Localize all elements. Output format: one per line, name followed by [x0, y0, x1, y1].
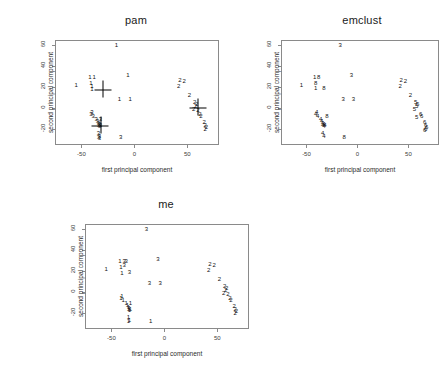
data-point: 1	[300, 82, 303, 88]
data-point: 2	[399, 83, 402, 89]
y-tick-label: -20	[70, 304, 76, 320]
data-point: 1	[92, 74, 95, 80]
x-axis-title: first principal component	[281, 166, 439, 173]
data-point: 2	[400, 77, 403, 83]
x-tick	[306, 145, 307, 148]
x-tick-label: 50	[393, 151, 423, 157]
data-point: 2	[182, 78, 185, 84]
data-point: 8	[325, 113, 328, 119]
data-point: 1	[128, 96, 131, 102]
data-point: 1	[118, 96, 121, 102]
y-tick-label: 20	[40, 78, 46, 94]
data-point: 2	[207, 267, 210, 273]
data-point: 1	[115, 42, 118, 48]
data-point: 3	[128, 269, 131, 275]
data-point: 1	[127, 318, 130, 324]
x-axis-title: first principal component	[85, 350, 249, 357]
data-point: 3	[148, 280, 151, 286]
panel-title: emclust	[226, 14, 446, 26]
data-point: 3	[145, 226, 148, 232]
x-tick	[217, 329, 218, 332]
data-point: 1	[149, 318, 152, 324]
x-tick	[164, 329, 165, 332]
data-point: 3	[352, 96, 355, 102]
y-tick-label: 20	[266, 78, 272, 94]
x-tick-label: 50	[202, 335, 232, 341]
data-point: 2	[208, 261, 211, 267]
data-point: 1	[129, 306, 132, 312]
y-axis-title: second principal component	[77, 224, 84, 329]
data-point: 3	[122, 262, 125, 268]
x-axis-title: first principal component	[55, 166, 219, 173]
medoid-vertical-bar	[103, 81, 104, 98]
data-point: 4	[323, 122, 326, 128]
data-point: 2	[229, 297, 232, 303]
data-point: 2	[222, 290, 225, 296]
medoid-crosshair	[189, 99, 206, 116]
data-point: 3	[119, 134, 122, 140]
x-tick	[134, 145, 135, 148]
data-point: 2	[212, 262, 215, 268]
y-tick-label: 40	[40, 57, 46, 73]
plot-frame	[55, 40, 219, 145]
data-point: 3	[158, 280, 161, 286]
x-tick-label: -50	[96, 335, 126, 341]
data-point: 8	[317, 74, 320, 80]
y-tick-label: 60	[40, 36, 46, 52]
y-tick-label: 40	[266, 57, 272, 73]
data-point: 8	[314, 80, 317, 86]
data-point: 2	[409, 92, 412, 98]
y-tick-label: -20	[40, 120, 46, 136]
data-point: 2	[234, 310, 237, 316]
y-tick-label: 0	[266, 99, 272, 115]
medoid-crosshair	[94, 81, 111, 98]
y-tick-label: 0	[70, 283, 76, 299]
x-tick	[111, 329, 112, 332]
data-point: 1	[88, 74, 91, 80]
x-tick-label: 0	[119, 151, 149, 157]
x-tick-label: 50	[172, 151, 202, 157]
data-point: 1	[104, 266, 107, 272]
data-point: 1	[74, 82, 77, 88]
data-point: 2	[218, 276, 221, 282]
data-point: 8	[343, 134, 346, 140]
y-tick-label: 0	[40, 99, 46, 115]
data-point: 5	[415, 114, 418, 120]
data-point: 2	[177, 83, 180, 89]
data-point: 4	[322, 133, 325, 139]
data-point: 3	[338, 42, 341, 48]
data-point: 3	[350, 72, 353, 78]
x-tick	[81, 145, 82, 148]
data-point: 1	[126, 72, 129, 78]
data-point: 3	[98, 135, 101, 141]
y-tick-label: 20	[70, 262, 76, 278]
medoid-crosshair	[92, 117, 109, 134]
data-point: 6	[420, 113, 423, 119]
data-point: 3	[342, 96, 345, 102]
y-axis-title: second principal component	[47, 40, 54, 145]
x-tick	[357, 145, 358, 148]
data-point: 5	[413, 106, 416, 112]
x-tick-label: -50	[291, 151, 321, 157]
y-tick-label: 60	[266, 36, 272, 52]
data-point: 2	[204, 126, 207, 132]
y-tick-label: 40	[70, 241, 76, 257]
data-point: 8	[322, 85, 325, 91]
data-point: 1	[313, 74, 316, 80]
medoid-vertical-bar	[198, 99, 199, 116]
data-point: 1	[118, 258, 121, 264]
data-point: 2	[178, 77, 181, 83]
x-tick	[408, 145, 409, 148]
data-point: 1	[314, 85, 317, 91]
data-point: 1	[120, 270, 123, 276]
data-point: 3	[156, 256, 159, 262]
data-point: 2	[404, 78, 407, 84]
x-tick	[187, 145, 188, 148]
x-tick-label: -50	[66, 151, 96, 157]
medoid-vertical-bar	[100, 117, 101, 134]
x-tick-label: 0	[342, 151, 372, 157]
plot-frame	[281, 40, 439, 145]
panel-title: me	[30, 198, 302, 210]
data-point: 6	[423, 127, 426, 133]
plot-frame	[85, 224, 249, 329]
